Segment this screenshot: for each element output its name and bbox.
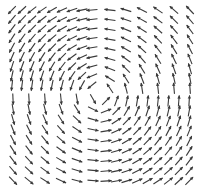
arrow-head-icon [172,63,175,67]
arrow-head-icon [167,95,170,99]
arrow-head-icon [108,119,112,122]
arrow-head-icon [129,179,133,182]
arrow-head-icon [120,17,124,20]
arrow-head-icon [79,159,83,162]
arrow-head-icon [28,111,31,115]
vector-field-plot [0,0,200,190]
arrow-head-icon [20,68,23,72]
arrow-head-icon [95,128,99,131]
arrow-head-icon [60,87,63,91]
arrow-head-icon [66,9,70,12]
arrow-head-icon [66,19,70,22]
arrow-layer [8,6,194,185]
arrow-head-icon [28,121,31,125]
arrow-head-icon [104,47,108,50]
arrow-head-icon [60,111,63,115]
arrow-head-icon [178,115,181,119]
arrow-head-icon [118,139,122,142]
arrow-head-icon [116,95,119,99]
arrow-head-icon [129,169,133,172]
arrow-head-icon [95,169,99,172]
arrow-head-icon [70,87,73,91]
arrow-head-icon [10,68,13,72]
arrow-head-icon [126,95,129,99]
arrow-head-icon [188,95,191,99]
arrow-head-icon [76,18,80,21]
arrow-head-icon [119,169,123,172]
arrow-head-icon [76,37,80,40]
arrow-head-icon [76,9,80,12]
arrow-head-icon [95,179,99,182]
panel-top-left [8,6,98,91]
arrow-head-icon [86,56,90,59]
panel-bottom-left [9,94,99,185]
arrow-head-icon [44,111,47,115]
panel-top-right [104,6,194,94]
panel-bottom-right [101,95,194,185]
arrow-head-icon [124,83,127,87]
arrow-head-icon [172,73,175,77]
arrow-head-icon [118,159,122,162]
arrow-head-icon [120,8,124,11]
arrow-head-icon [50,87,53,91]
arrow-head-icon [177,95,180,99]
